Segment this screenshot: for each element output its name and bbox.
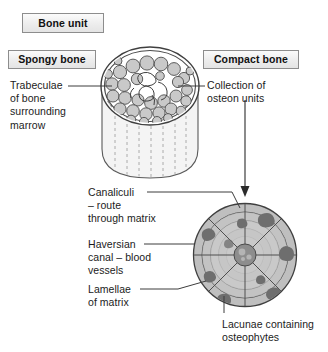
label-trabeculae: Trabeculae of bone surrounding marrow [10, 79, 102, 132]
leader-lamellae-d [178, 281, 206, 289]
compact-bone-label-box: Compact bone [203, 50, 299, 69]
label-haversian-canal: Haversian canal – blood vessels [88, 238, 182, 278]
label-lamellae: Lamellae of matrix [88, 283, 172, 309]
bone-unit-diagram: Bone unit Spongy bone Compact bone Trabe… [0, 0, 328, 352]
spongy-bone-label-box: Spongy bone [8, 50, 96, 69]
label-canaliculi: Canaliculi – route through matrix [88, 186, 186, 226]
label-collection-of-osteon-units: Collection of osteon units [207, 79, 307, 105]
bone-unit-title-box: Bone unit [22, 13, 104, 33]
haversian-canal [234, 244, 256, 266]
osteon-cross-section [193, 203, 297, 307]
spongy-bone-cylinder [101, 47, 199, 179]
flow-arrow [241, 100, 250, 197]
label-lacunae: Lacunae containing osteophytes [222, 318, 328, 344]
